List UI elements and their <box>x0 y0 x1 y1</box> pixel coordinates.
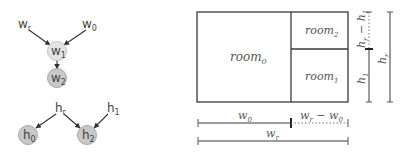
room-0-label: room0 <box>230 50 267 66</box>
edge-w0-w1 <box>64 30 86 45</box>
dim-wr-minus-w0: wr − w0 <box>300 109 343 124</box>
node-h-0: h0 <box>19 126 38 145</box>
node-h-1: h1 <box>107 101 120 117</box>
width-dependency-graph: wr w0 w1 w2 <box>18 17 97 88</box>
node-h-r: hr <box>55 101 67 117</box>
svg-text:hr: hr <box>55 101 67 117</box>
diagram-canvas: wr w0 w1 w2 hr h1 h0 h2 <box>0 0 403 159</box>
dim-wr: wr <box>266 127 279 142</box>
node-h-2: h2 <box>78 126 97 145</box>
svg-text:wr: wr <box>18 17 32 33</box>
height-dimensions: hr − h1 h1 hr <box>355 10 393 102</box>
node-w-0: w0 <box>82 17 97 33</box>
node-w-r: wr <box>18 17 32 33</box>
height-dependency-graph: hr h1 h0 h2 <box>19 101 120 145</box>
dim-h1: h1 <box>355 72 370 84</box>
svg-text:w0: w0 <box>82 17 97 33</box>
dim-hr: hr <box>376 53 391 64</box>
room-2-label: room2 <box>305 24 339 39</box>
svg-text:h1: h1 <box>107 101 120 117</box>
edge-hr-h2 <box>64 114 80 128</box>
edge-hr-h0 <box>36 114 56 128</box>
edge-wr-w1 <box>29 30 50 45</box>
floorplan: room0 room2 room1 <box>197 12 348 102</box>
edge-h1-h2 <box>94 114 108 128</box>
dim-hr-minus-h1: hr − h1 <box>355 10 370 48</box>
node-w-1: w1 <box>48 42 67 61</box>
node-w-2: w2 <box>48 69 67 88</box>
width-dimensions: w0 wr − w0 wr <box>198 109 348 145</box>
room-1-label: room1 <box>305 70 338 85</box>
dim-w0: w0 <box>238 109 252 124</box>
